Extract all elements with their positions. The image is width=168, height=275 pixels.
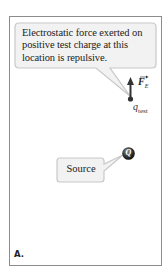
force-vector-label: FE <box>138 76 148 89</box>
force-arrow-icon <box>127 77 134 99</box>
force-symbol: F <box>138 76 145 87</box>
force-subscript: E <box>145 83 149 89</box>
test-charge-subscript: test <box>138 107 148 115</box>
panel-label: A. <box>14 249 24 259</box>
source-callout-text: Source <box>57 163 105 174</box>
source-charge-label: Q <box>124 148 133 157</box>
force-callout-text: Electrostatic force exerted on positive … <box>22 27 154 64</box>
test-charge-label: qtest <box>133 101 148 115</box>
